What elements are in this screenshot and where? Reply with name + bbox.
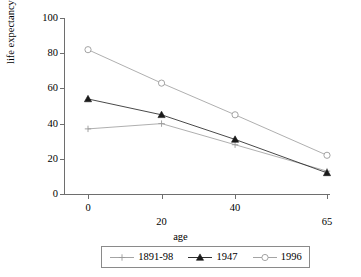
- x-tick-label: 20: [156, 217, 167, 228]
- legend-label: 1891-98: [138, 252, 173, 263]
- y-tick-label: 60: [48, 83, 59, 94]
- y-axis-title: life expectancy: [6, 50, 17, 64]
- x-tick-mark: [88, 195, 89, 199]
- series-layer: [64, 18, 330, 195]
- triangle-marker: [84, 95, 91, 101]
- y-tick-label: 80: [48, 48, 59, 59]
- legend-item[interactable]: 1947: [187, 252, 237, 263]
- y-tick-label: 0: [53, 189, 58, 200]
- series-line: [88, 124, 327, 172]
- triangle-icon: [187, 252, 213, 263]
- circle-marker: [158, 80, 164, 86]
- x-tick-mark: [327, 195, 328, 199]
- circle-marker: [232, 112, 238, 118]
- triangle-marker: [231, 136, 238, 142]
- legend-item[interactable]: 1996: [252, 252, 302, 263]
- plus-marker: [85, 126, 91, 132]
- circle-marker: [85, 47, 91, 53]
- x-axis-title: age: [0, 232, 361, 243]
- x-tick-label: 40: [230, 203, 241, 214]
- legend-item[interactable]: 1891-98: [109, 252, 173, 263]
- circle-icon: [252, 252, 278, 263]
- circle-marker: [324, 152, 330, 158]
- chart-container: life expectancy 020406080100 0204065 age…: [0, 0, 361, 277]
- y-tick-label: 100: [42, 13, 58, 24]
- legend-label: 1996: [281, 252, 302, 263]
- plus-icon: [109, 252, 135, 263]
- plot-area: 020406080100 0204065: [64, 18, 330, 195]
- legend-label: 1947: [216, 252, 237, 263]
- series-1891-98: [85, 120, 330, 174]
- y-tick-label: 40: [48, 118, 59, 129]
- plus-marker: [119, 254, 125, 260]
- x-tick-label: 0: [85, 203, 90, 214]
- x-tick-label: 65: [322, 217, 333, 228]
- chart-legend: 1891-9819471996: [101, 246, 310, 268]
- series-1996: [85, 47, 330, 159]
- series-line: [88, 50, 327, 156]
- x-tick-mark: [162, 195, 163, 199]
- plus-marker: [158, 120, 164, 126]
- series-1947: [84, 95, 330, 175]
- circle-marker: [262, 254, 268, 260]
- series-line: [88, 99, 327, 173]
- y-tick-label: 20: [48, 154, 59, 165]
- x-tick-mark: [235, 195, 236, 199]
